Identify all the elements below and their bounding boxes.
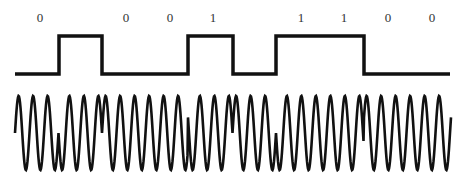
data-square-wave <box>15 36 450 74</box>
bit-labels: 00011100 <box>37 10 436 25</box>
psk-diagram: 00011100 <box>0 0 465 182</box>
bit-label: 0 <box>37 10 44 25</box>
modulated-carrier-wave <box>15 96 451 170</box>
bit-label: 1 <box>210 10 217 25</box>
bit-label: 1 <box>341 10 348 25</box>
bit-label: 0 <box>123 10 130 25</box>
bit-label: 1 <box>298 10 305 25</box>
bit-label: 0 <box>167 10 174 25</box>
bit-label: 0 <box>385 10 392 25</box>
bit-label: 0 <box>429 10 436 25</box>
